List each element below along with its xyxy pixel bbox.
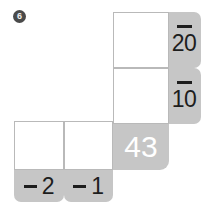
minus-sign-icon xyxy=(177,81,192,84)
answer-cell-mid-right[interactable] xyxy=(113,68,169,124)
operation-tab-minus-10: 10 xyxy=(169,68,201,124)
start-value-box: 43 xyxy=(113,124,169,170)
minus-sign-icon xyxy=(73,185,86,188)
operand-value: 10 xyxy=(172,88,197,111)
start-value-text: 43 xyxy=(124,132,157,162)
operand-value: 2 xyxy=(42,175,54,198)
operand-value: 1 xyxy=(91,175,103,198)
minus-sign-icon xyxy=(177,25,192,28)
operation-tab-minus-20: 20 xyxy=(169,12,201,68)
question-number-badge: 6 xyxy=(13,10,26,23)
minus-sign-icon xyxy=(24,185,37,188)
operation-tab-minus-2: 2 xyxy=(14,170,64,202)
answer-cell-bottom-middle[interactable] xyxy=(64,121,113,170)
operand-value: 20 xyxy=(172,32,197,55)
answer-cell-bottom-left[interactable] xyxy=(14,121,64,170)
worksheet-problem: 6 20 10 43 2 1 xyxy=(0,0,209,216)
operation-tab-minus-1: 1 xyxy=(64,170,113,202)
answer-cell-top-right[interactable] xyxy=(113,12,169,68)
